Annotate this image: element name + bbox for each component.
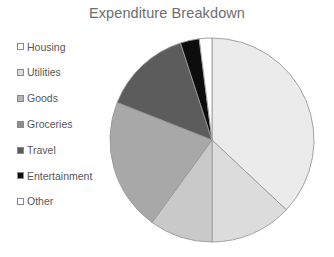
chart-title: Expenditure Breakdown [0,5,334,21]
legend-swatch-icon [17,198,24,205]
legend-item-label: Other [27,196,53,207]
legend-item-label: Groceries [27,119,73,130]
legend-swatch-icon [17,95,24,102]
legend-item-label: Travel [27,145,56,156]
pie-plot-area [109,37,315,243]
legend-item-label: Housing [27,42,66,53]
legend-item-label: Utilities [27,67,61,78]
legend-swatch-icon [17,147,24,154]
pie-chart-figure: Expenditure Breakdown Housing Utilities … [0,0,334,257]
legend-swatch-icon [17,43,24,50]
pie-svg [109,37,315,243]
legend-item-label: Entertainment [27,171,92,182]
legend-item-label: Goods [27,93,58,104]
legend-swatch-icon [17,172,24,179]
legend-swatch-icon [17,121,24,128]
legend-swatch-icon [17,69,24,76]
